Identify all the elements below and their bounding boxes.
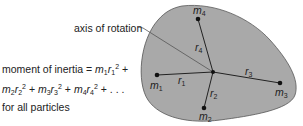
label-m4: m4: [193, 4, 206, 20]
formula-line-1: moment of inertia = m1r12 +: [2, 60, 128, 80]
label-r1: r1: [178, 74, 185, 90]
label-m2: m2: [199, 110, 212, 126]
rigid-body-shape: [141, 5, 296, 121]
label-m3: m3: [275, 86, 288, 102]
label-r4: r4: [195, 41, 202, 57]
formula-line-2: m2r22 + m3r32 + m4r42 + . . .: [2, 80, 128, 100]
label-m1: m1: [150, 79, 163, 95]
formula-line-3: for all particles: [2, 100, 128, 114]
axis-center-point: [211, 70, 215, 74]
particle-m1: [155, 73, 160, 78]
axis-of-rotation-label: axis of rotation: [74, 22, 142, 35]
particle-m3: [278, 81, 283, 86]
label-r3: r3: [245, 65, 252, 81]
label-r2: r2: [210, 87, 217, 103]
moment-of-inertia-formula: moment of inertia = m1r12 + m2r22 + m3r3…: [2, 60, 128, 114]
